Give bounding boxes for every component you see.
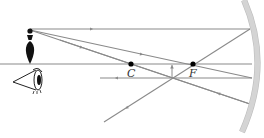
point-f [190, 61, 195, 66]
object-body [26, 41, 34, 64]
point-c [128, 61, 133, 66]
concave-mirror [242, 0, 258, 132]
mirror-surface [242, 0, 258, 132]
rays [30, 27, 252, 122]
ray-arrow-icon [90, 27, 93, 30]
ray-arrow-icon [217, 92, 221, 95]
center-ray-reflected [60, 40, 250, 104]
object-head [27, 28, 32, 33]
image-arrow [170, 65, 174, 77]
image-arrowhead-icon [170, 65, 174, 69]
eye-pupil [37, 75, 41, 85]
label-focus-f: F [189, 68, 197, 79]
label-center-c: C [127, 68, 135, 79]
eye-lashes [33, 90, 41, 94]
object-figure [26, 28, 34, 64]
ray-arrow-icon [115, 76, 118, 79]
object-neck [27, 35, 33, 40]
eye-icon [13, 68, 42, 94]
eye-cone [13, 70, 36, 90]
